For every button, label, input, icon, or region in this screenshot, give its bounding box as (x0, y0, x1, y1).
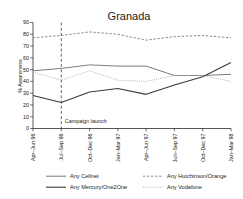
x-tick-label: Jul–Sep 96 (58, 134, 64, 161)
series-line-0 (33, 65, 231, 76)
x-tick-label: Jan–Mar 97 (115, 134, 121, 162)
campaign-launch-label: Campaign launch (65, 118, 107, 124)
y-tick-label: 60 (23, 55, 29, 61)
legend-label-2: Any Mercury/One2One (70, 184, 127, 190)
legend-label-0: Any Cellnet (70, 173, 99, 179)
y-tick-label: 0 (26, 125, 29, 131)
y-tick-label: 90 (23, 19, 29, 25)
chart-figure: Granada 0102030405060708090 % Awareness … (0, 0, 243, 199)
y-tick-label: 70 (23, 43, 29, 49)
y-axis: 0102030405060708090 % Awareness (17, 19, 33, 131)
x-tick-label: Oct–Dec 97 (200, 134, 206, 162)
y-tick-label: 40 (23, 78, 29, 84)
y-tick-label: 20 (23, 102, 29, 108)
x-tick-label: Oct–Dec 96 (87, 134, 93, 162)
y-tick-label: 50 (23, 67, 29, 73)
y-tick-label: 30 (23, 90, 29, 96)
series-line-3 (33, 71, 231, 82)
annotation-group: Campaign launch (61, 23, 106, 129)
y-tick-label: 10 (23, 114, 29, 120)
chart-title-group: Granada (108, 10, 152, 22)
x-axis: Apr–Jun 96Jul–Sep 96Oct–Dec 96Jan–Mar 97… (30, 129, 234, 163)
chart-svg: Granada 0102030405060708090 % Awareness … (0, 0, 243, 199)
legend-label-1: Any Hutchinson/Orange (167, 173, 226, 179)
y-tick-group: 0102030405060708090 (23, 19, 33, 131)
x-tick-label: Jun–Sep 97 (172, 134, 178, 163)
x-tick-label: Apr–Jun 97 (143, 134, 149, 162)
y-axis-label: % Awareness (17, 59, 23, 93)
chart-title: Granada (108, 10, 152, 22)
legend-label-3: Any Vodafone (167, 184, 202, 190)
series-line-1 (33, 32, 231, 40)
y-tick-label: 80 (23, 31, 29, 37)
series-group (33, 32, 231, 103)
chart-legend: Any CellnetAny Hutchinson/OrangeAny Merc… (46, 173, 226, 190)
x-tick-group: Apr–Jun 96Jul–Sep 96Oct–Dec 96Jan–Mar 97… (30, 129, 234, 163)
x-tick-label: Jan–Mar 98 (228, 134, 234, 162)
x-tick-label: Apr–Jun 96 (30, 134, 36, 162)
